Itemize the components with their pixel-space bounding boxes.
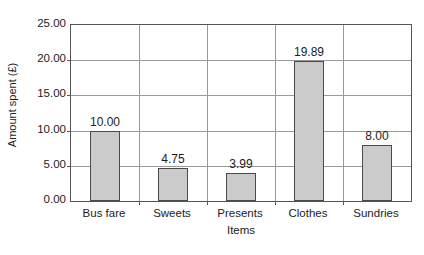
gridline [71,95,411,96]
x-axis-tick-mark [343,201,344,205]
plot-area: 10.004.753.9919.898.00 [70,24,412,202]
bar [362,145,392,201]
category-divider [343,25,344,201]
bar-value-label: 8.00 [347,130,407,142]
y-axis-tick-label: 0.00 [18,194,66,206]
y-axis-tick-labels: 0.005.0010.0015.0020.0025.00 [18,0,66,255]
x-axis-tick-label: Sundries [353,207,398,219]
x-axis-tick-label: Bus fare [83,207,126,219]
x-axis-title: Items [70,224,412,236]
bar-value-label: 3.99 [211,158,271,170]
bar-value-label: 19.89 [279,46,339,58]
y-axis-tick-mark [67,166,71,167]
bar [90,131,120,201]
x-axis-tick-mark [139,201,140,205]
y-axis-title-label: Amount spent (£) [6,63,18,147]
y-axis-tick-mark [67,60,71,61]
y-axis-tick-mark [67,131,71,132]
x-axis-tick-label: Clothes [289,207,328,219]
y-axis-tick-label: 15.00 [18,89,66,101]
y-axis-tick-label: 10.00 [18,124,66,136]
category-divider [207,25,208,201]
bar [158,168,188,201]
category-divider [139,25,140,201]
bar-chart-figure: Amount spent (£) 0.005.0010.0015.0020.00… [0,0,424,255]
category-divider [275,25,276,201]
y-axis-tick-label: 25.00 [18,18,66,30]
bar-value-label: 4.75 [143,153,203,165]
bar [226,173,256,201]
x-axis-tick-label: Presents [217,207,262,219]
y-axis-tick-mark [67,95,71,96]
x-axis-tick-mark [207,201,208,205]
x-axis-tick-label: Sweets [153,207,191,219]
y-axis-tick-label: 5.00 [18,159,66,171]
bar-value-label: 10.00 [75,116,135,128]
gridline [71,60,411,61]
y-axis-tick-label: 20.00 [18,53,66,65]
x-axis-tick-mark [275,201,276,205]
bar [294,61,324,201]
